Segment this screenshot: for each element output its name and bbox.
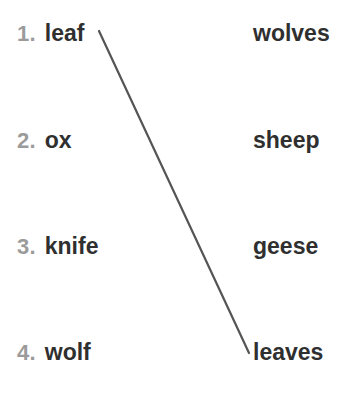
left-item-group[interactable]: 2. ox [17,127,72,154]
right-word[interactable]: leaves [253,339,323,366]
left-item-group[interactable]: 3. knife [17,233,98,260]
right-word[interactable]: wolves [253,20,330,47]
left-word[interactable]: ox [45,127,72,154]
left-word[interactable]: leaf [45,20,85,47]
matching-exercise: 1. leaf wolves 2. ox sheep 3. knife gees… [0,0,358,417]
match-row: 4. wolf leaves [0,337,358,367]
left-word[interactable]: wolf [45,339,91,366]
item-number: 2. [17,128,36,154]
match-row: 2. ox sheep [0,125,358,155]
item-number: 3. [17,234,36,260]
right-word[interactable]: sheep [253,127,319,154]
left-word[interactable]: knife [45,233,99,260]
match-row: 3. knife geese [0,231,358,261]
left-item-group[interactable]: 1. leaf [17,20,84,47]
item-number: 4. [17,340,36,366]
item-number: 1. [17,21,36,47]
match-row: 1. leaf wolves [0,18,358,48]
left-item-group[interactable]: 4. wolf [17,339,91,366]
matching-rows: 1. leaf wolves 2. ox sheep 3. knife gees… [0,0,358,417]
right-word[interactable]: geese [253,233,318,260]
